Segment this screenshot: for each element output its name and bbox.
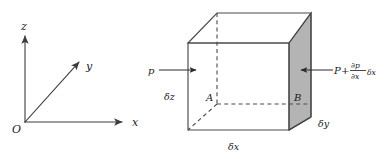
right-pressure-numerator: ∂p [351,61,360,70]
right-pressure-factor: δx [367,68,377,77]
height-label-deltaz: δz [164,91,176,102]
y-axis-line [25,62,79,122]
cube-front-face [188,43,289,130]
force-arrows-group: p P + ∂p ∂x δx [148,61,377,81]
figure-canvas: z x y O A B δz [0,0,390,159]
y-axis-label: y [85,60,93,73]
right-pressure-expression: P + ∂p ∂x δx [333,61,377,81]
right-pressure-denominator: ∂x [351,72,360,81]
cube-group: A B δz δx δy [164,13,330,152]
pressure-element-figure: z x y O A B δz [0,0,390,159]
right-pressure-base: P [333,65,341,76]
x-axis-label: x [132,116,139,129]
cube-hidden-bottom-left-edge [188,104,217,130]
z-axis-label: z [20,20,27,33]
depth-label-deltay: δy [318,118,330,129]
left-pressure-label: p [148,65,155,76]
back-face-label-B: B [293,92,301,103]
axes-group: z x y O [12,20,139,136]
front-face-label-A: A [205,92,213,103]
cube-top-face [188,13,311,43]
width-label-deltax: δx [228,141,240,152]
right-pressure-plus: + [341,65,349,76]
origin-label: O [12,123,21,136]
cube-right-face-shaded [289,13,311,130]
